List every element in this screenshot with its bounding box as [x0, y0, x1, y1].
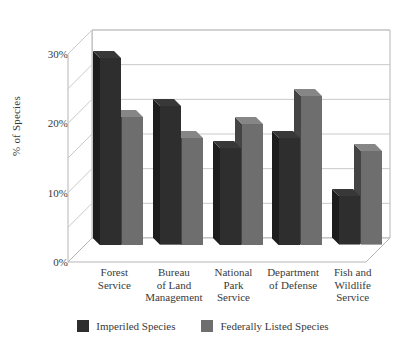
bar-3d	[93, 51, 121, 245]
x-category-label-line: Wildlife	[318, 279, 388, 292]
bar-front-face	[361, 151, 382, 245]
bar-3d	[272, 131, 300, 245]
bar-front-face	[182, 138, 203, 245]
bar-side-face	[272, 131, 279, 245]
bar-front-face	[100, 58, 121, 245]
x-category-label-line: Service	[199, 291, 269, 304]
legend-color-swatch	[77, 320, 89, 332]
legend-color-swatch	[201, 320, 213, 332]
x-category-label: Fish andWildlifeService	[318, 266, 388, 304]
x-category-label-line: Fish and	[318, 266, 388, 279]
x-axis-category-labels: ForestServiceBureauof LandManagementNati…	[62, 266, 398, 312]
bar-3d	[153, 99, 181, 245]
bar-front-face	[122, 117, 143, 245]
y-tick-label: 10%	[28, 187, 68, 199]
bar-front-face	[339, 196, 360, 245]
legend-label: Federally Listed Species	[220, 320, 328, 332]
bar-side-face	[332, 189, 339, 245]
bar-side-face	[213, 141, 220, 245]
y-axis-title: % of Species	[10, 66, 22, 186]
y-tick-label: 30%	[28, 48, 68, 60]
bar-chart: % of Species 30%20%10%0% ForestServiceBu…	[0, 0, 406, 352]
bar-front-face	[220, 148, 241, 245]
bar-3d	[213, 141, 241, 245]
bar-3d	[332, 189, 360, 245]
bar	[153, 99, 181, 245]
bar-front-face	[279, 138, 300, 245]
x-category-label-line: Service	[318, 291, 388, 304]
bar-side-face	[93, 51, 100, 245]
bar	[272, 131, 300, 245]
bar-series-container	[68, 30, 390, 262]
bar	[332, 189, 360, 245]
plot-area	[68, 30, 390, 262]
bar-front-face	[160, 106, 181, 245]
y-tick-label: 20%	[28, 117, 68, 129]
legend-label: Imperiled Species	[96, 320, 175, 332]
chart-legend: Imperiled SpeciesFederally Listed Specie…	[0, 320, 406, 332]
legend-item[interactable]: Imperiled Species	[77, 320, 175, 332]
bar	[93, 51, 121, 245]
legend-item[interactable]: Federally Listed Species	[201, 320, 328, 332]
bar-side-face	[153, 99, 160, 245]
bar-front-face	[242, 124, 263, 245]
bar	[213, 141, 241, 245]
bar-front-face	[301, 96, 322, 245]
